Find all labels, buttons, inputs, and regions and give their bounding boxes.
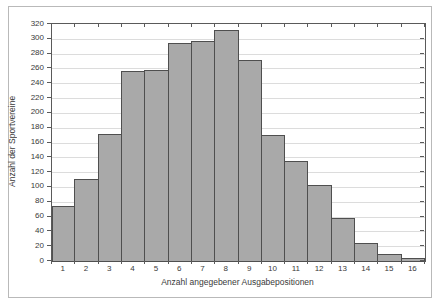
y-tick-mark-left [47,201,51,202]
bar-14 [354,243,378,262]
y-tick-mark-left [47,112,51,113]
y-tick-mark-left [47,38,51,39]
x-tick-label: 14 [354,264,377,273]
x-tick-mark-top [121,24,122,27]
x-tick-mark-top [424,24,425,27]
bar-10 [261,135,285,262]
gridline [52,54,425,55]
x-tick-label: 16 [401,264,424,273]
x-axis-title: Anzahl angegebener Ausgabepositionen [51,277,424,287]
x-tick-mark-bottom [424,261,425,264]
bar-7 [191,41,215,262]
y-tick-mark-right [420,82,424,83]
y-tick-mark-right [420,201,424,202]
bar-12 [307,185,331,262]
x-tick-mark-top [377,24,378,27]
y-tick-mark-left [47,127,51,128]
y-tick-mark-left [47,230,51,231]
x-tick-mark-bottom [51,261,52,264]
y-tick-mark-left [47,186,51,187]
x-tick-label: 7 [191,264,214,273]
y-tick-mark-right [420,186,424,187]
bar-13 [331,218,355,262]
bar-15 [377,254,401,262]
bar-5 [144,70,168,262]
x-tick-label: 11 [284,264,307,273]
x-tick-mark-top [354,24,355,27]
x-tick-mark-top [261,24,262,27]
x-tick-label: 15 [377,264,400,273]
y-tick-mark-left [47,82,51,83]
x-tick-label: 5 [144,264,167,273]
x-tick-mark-bottom [307,261,308,264]
x-tick-mark-top [284,24,285,27]
x-tick-label: 12 [307,264,330,273]
x-tick-mark-top [307,24,308,27]
x-tick-mark-bottom [331,261,332,264]
x-tick-mark-top [168,24,169,27]
x-tick-mark-bottom [214,261,215,264]
x-tick-mark-bottom [238,261,239,264]
y-tick-mark-right [420,97,424,98]
y-tick-mark-left [47,216,51,217]
y-tick-mark-right [420,112,424,113]
y-axis-title: Anzahl der Sportvereine [6,23,18,260]
x-tick-mark-top [238,24,239,27]
y-tick-mark-right [420,53,424,54]
x-tick-label: 3 [98,264,121,273]
y-tick-mark-left [47,53,51,54]
x-tick-mark-bottom [377,261,378,264]
x-tick-mark-bottom [401,261,402,264]
x-tick-mark-bottom [284,261,285,264]
y-tick-mark-right [420,67,424,68]
x-tick-mark-top [74,24,75,27]
plot-area [51,23,426,262]
y-tick-mark-left [47,67,51,68]
x-tick-mark-top [144,24,145,27]
histogram-screenshot: { "chart_data": { "type": "bar", "title"… [0,0,442,307]
bar-11 [284,161,308,262]
y-tick-mark-right [420,216,424,217]
x-tick-label: 8 [214,264,237,273]
x-tick-label: 9 [238,264,261,273]
y-tick-mark-right [420,245,424,246]
x-tick-mark-bottom [168,261,169,264]
x-tick-label: 2 [74,264,97,273]
bar-9 [238,60,262,262]
gridline [52,39,425,40]
x-tick-label: 13 [331,264,354,273]
x-tick-mark-top [214,24,215,27]
x-tick-label: 6 [168,264,191,273]
y-tick-mark-left [47,156,51,157]
x-tick-mark-bottom [74,261,75,264]
y-tick-mark-right [420,38,424,39]
y-tick-mark-left [47,142,51,143]
bar-4 [121,71,145,262]
x-tick-mark-top [191,24,192,27]
x-tick-mark-top [401,24,402,27]
x-tick-mark-bottom [121,261,122,264]
y-tick-mark-right [420,230,424,231]
y-tick-mark-right [420,156,424,157]
x-tick-label: 4 [121,264,144,273]
x-tick-mark-top [331,24,332,27]
y-tick-mark-right [420,171,424,172]
x-tick-mark-bottom [261,261,262,264]
x-tick-mark-bottom [98,261,99,264]
bar-2 [74,179,98,262]
y-tick-mark-right [420,127,424,128]
x-tick-label: 10 [261,264,284,273]
x-tick-mark-bottom [354,261,355,264]
bar-3 [98,134,122,262]
y-tick-mark-left [47,245,51,246]
bar-1 [52,206,75,262]
x-tick-mark-top [51,24,52,27]
bar-8 [214,30,238,262]
x-tick-label: 1 [51,264,74,273]
y-tick-mark-left [47,97,51,98]
x-tick-mark-bottom [191,261,192,264]
x-tick-mark-top [98,24,99,27]
y-tick-mark-right [420,142,424,143]
x-tick-mark-bottom [144,261,145,264]
bar-6 [168,43,192,262]
